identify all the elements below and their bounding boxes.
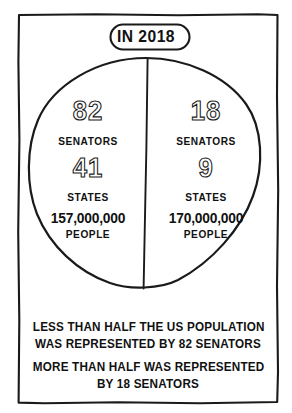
right-slice-senators-label: SENATORS bbox=[154, 136, 257, 147]
left-slice-population-label: PEOPLE bbox=[36, 229, 139, 240]
caption-line-4: BY 18 SENATORS bbox=[33, 377, 263, 390]
caption-line-1: LESS THAN HALF THE US POPULATION bbox=[33, 320, 263, 333]
right-slice-states-value: 9 bbox=[153, 155, 259, 182]
left-slice-senators-value: 82 bbox=[35, 98, 141, 125]
infographic-poster: IN 2018 82 SENATORS 41 STATES 157,000,00… bbox=[0, 0, 292, 413]
right-slice-senators-value: 18 bbox=[153, 98, 259, 125]
caption-line-2: WAS REPRESENTED BY 82 SENATORS bbox=[33, 337, 263, 350]
text-layer: IN 2018 82 SENATORS 41 STATES 157,000,00… bbox=[0, 0, 292, 413]
right-slice-population-label: PEOPLE bbox=[154, 229, 257, 240]
left-slice-population-value: 157,000,000 bbox=[35, 211, 141, 226]
right-slice-population-value: 170,000,000 bbox=[153, 211, 259, 226]
title-badge-label: IN 2018 bbox=[12, 28, 281, 45]
left-slice-states-value: 41 bbox=[35, 155, 141, 182]
caption-line-3: MORE THAN HALF WAS REPRESENTED bbox=[33, 360, 263, 373]
left-slice-senators-label: SENATORS bbox=[36, 136, 139, 147]
left-slice-states-label: STATES bbox=[36, 192, 139, 203]
right-slice-states-label: STATES bbox=[154, 192, 257, 203]
